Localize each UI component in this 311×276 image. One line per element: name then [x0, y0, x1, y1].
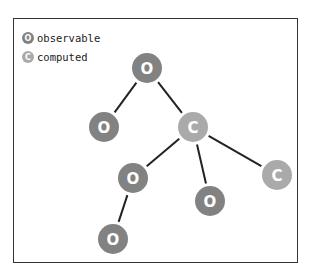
graph-edge: [158, 82, 182, 113]
graph-edge: [119, 195, 128, 222]
graph-edge: [115, 83, 137, 113]
graph-edge: [147, 139, 180, 167]
node-label: O: [204, 193, 217, 211]
node-label: O: [107, 231, 120, 249]
graph-edge: [197, 145, 206, 184]
computed-node: C: [262, 160, 292, 190]
observable-node: O: [195, 186, 225, 216]
observable-node: O: [132, 53, 162, 83]
node-label: C: [187, 119, 198, 137]
node-label: O: [141, 60, 154, 78]
graph-edge: [209, 136, 262, 166]
node-label: C: [271, 167, 282, 185]
dependency-graph: OOCOOCO: [0, 0, 311, 276]
computed-node: C: [178, 112, 208, 142]
node-label: O: [98, 119, 111, 137]
graph-edges: [115, 82, 262, 222]
observable-node: O: [98, 224, 128, 254]
node-label: O: [127, 170, 140, 188]
graph-nodes: OOCOOCO: [89, 53, 292, 254]
observable-node: O: [118, 163, 148, 193]
observable-node: O: [89, 112, 119, 142]
